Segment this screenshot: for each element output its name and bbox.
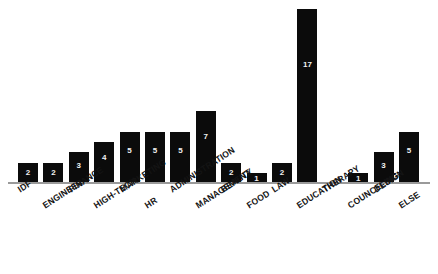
- bar-else: 5: [399, 1, 419, 183]
- bar-high-tech: 4: [94, 1, 114, 183]
- bar-counceling: 1: [348, 1, 368, 183]
- bar-marketing: 5: [120, 1, 140, 183]
- bar-administration: 5: [170, 1, 190, 183]
- bar-value-label: 2: [43, 169, 63, 177]
- bar-hr: 5: [145, 1, 165, 183]
- x-tick-label-food: FOOD: [245, 187, 273, 210]
- bar-value-label: 2: [272, 169, 292, 177]
- bar-finance: 3: [69, 1, 89, 183]
- bar-education: 17: [297, 1, 317, 183]
- x-tick-label-hr: HR: [143, 195, 160, 211]
- x-tick-label-else: ELSE: [397, 189, 423, 211]
- bar-value-label: 5: [170, 147, 190, 155]
- bar-value-label: 7: [196, 133, 216, 141]
- bar-value-label: 17: [297, 61, 317, 69]
- bar-value-label: 5: [120, 147, 140, 155]
- bar-idf: 2: [18, 1, 38, 183]
- bar-value-label: 5: [145, 147, 165, 155]
- bar-value-label: 3: [374, 162, 394, 170]
- bar-value-label: 3: [69, 162, 89, 170]
- bar-law: 2: [272, 1, 292, 183]
- bar-design: 3: [374, 1, 394, 183]
- bar-therapy: [323, 1, 343, 183]
- bar-value-label: 2: [18, 169, 38, 177]
- bar-rect: [297, 9, 317, 183]
- bar-engineer: 2: [43, 1, 63, 183]
- bar-value-label: 4: [94, 154, 114, 162]
- bar-food: 1: [247, 1, 267, 183]
- bar-value-label: 5: [399, 147, 419, 155]
- bar-chart-figure: 2234555721217135 IDFENGINEERFINANCEHIGH-…: [0, 0, 438, 274]
- x-axis-tick-labels: IDFENGINEERFINANCEHIGH-TECHMARKETINGHRAD…: [0, 183, 438, 274]
